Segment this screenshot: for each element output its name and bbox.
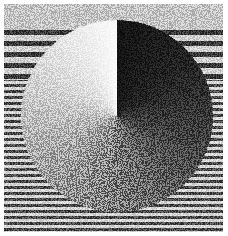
shaded-disc: [21, 20, 213, 212]
halftone-image: [4, 4, 223, 232]
